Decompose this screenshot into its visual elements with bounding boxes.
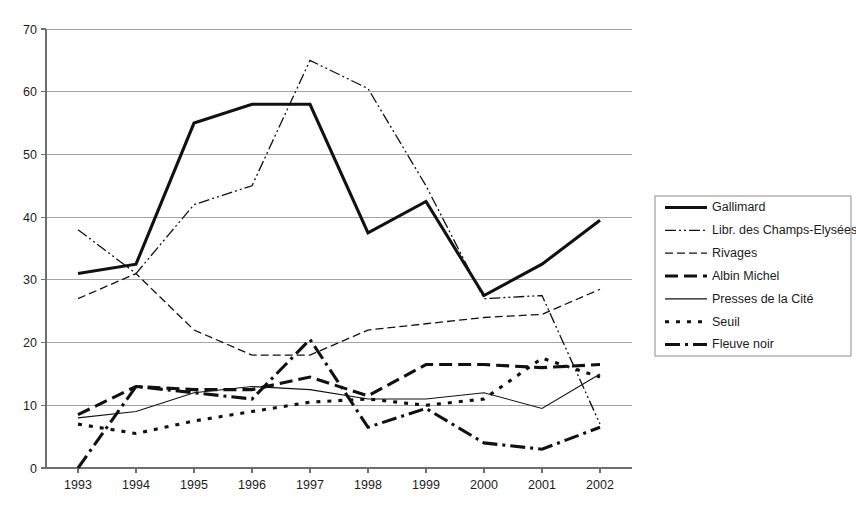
x-tick-label-1995: 1995 [180,478,208,492]
x-tick-label-2001: 2001 [528,478,556,492]
y-tick-label-50: 50 [23,148,37,162]
legend-label-1: Libr. des Champs-Elysées [712,223,856,237]
legend-label-0: Gallimard [712,200,766,214]
y-tick-label-60: 60 [23,85,37,99]
y-tick-label-40: 40 [23,211,37,225]
y-tick-label-20: 20 [23,336,37,350]
y-tick-label-70: 70 [23,23,37,37]
legend-label-5: Seuil [712,315,740,329]
x-tick-label-1999: 1999 [412,478,440,492]
legend-label-4: Presses de la Cité [712,292,813,306]
y-tick-label-0: 0 [30,462,37,476]
x-tick-label-2000: 2000 [470,478,498,492]
x-tick-label-1996: 1996 [238,478,266,492]
line-chart: 010203040506070 199319941995199619971998… [0,0,856,508]
legend-label-6: Fleuve noir [712,337,774,351]
y-tick-label-30: 30 [23,273,37,287]
x-tick-label-1998: 1998 [354,478,382,492]
legend-label-2: Rivages [712,246,757,260]
x-tick-label-2002: 2002 [586,478,614,492]
x-tick-label-1993: 1993 [64,478,92,492]
legend-label-3: Albin Michel [712,269,779,283]
x-tick-label-1997: 1997 [296,478,324,492]
chart-canvas: 010203040506070 199319941995199619971998… [0,0,856,508]
x-tick-label-1994: 1994 [122,478,150,492]
y-tick-label-10: 10 [23,399,37,413]
